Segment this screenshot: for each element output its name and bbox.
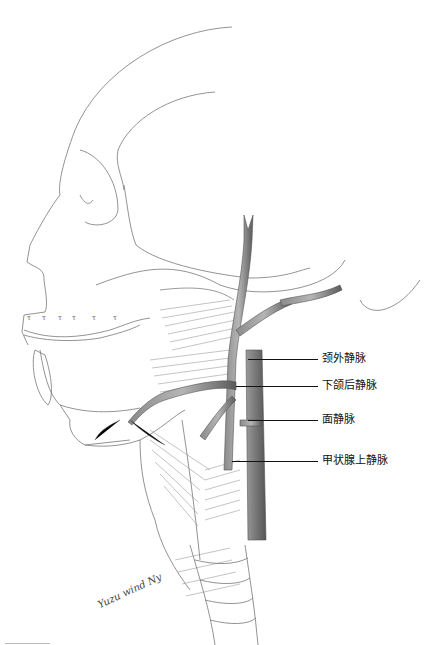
leader-line-retromandibular-vein	[236, 386, 318, 387]
label-facial-vein: 面静脉	[322, 414, 355, 426]
svg-text:τ: τ	[27, 314, 31, 322]
svg-text:τ: τ	[42, 314, 46, 322]
leader-line-external-jugular-vein	[248, 359, 318, 360]
svg-text:τ: τ	[58, 314, 62, 322]
label-external-jugular-vein: 颈外静脉	[322, 353, 366, 365]
vein-network	[95, 215, 342, 470]
svg-text:τ: τ	[113, 314, 117, 322]
label-retromandibular-vein: 下颌后静脉	[322, 380, 377, 392]
anatomy-illustration: τττ τττ	[0, 0, 445, 645]
tongue	[33, 350, 51, 405]
footer-rule	[5, 643, 50, 644]
trachea	[190, 545, 258, 645]
svg-text:τ: τ	[72, 314, 76, 322]
svg-text:τ: τ	[92, 314, 96, 322]
label-superior-thyroid-vein: 甲状腺上静脉	[322, 455, 388, 467]
internal-jugular-vein	[246, 350, 266, 540]
skull-outline	[22, 27, 420, 345]
leader-line-superior-thyroid-vein	[232, 461, 318, 462]
teeth-marks: τττ τττ	[27, 314, 117, 322]
leader-line-facial-vein	[248, 420, 318, 421]
